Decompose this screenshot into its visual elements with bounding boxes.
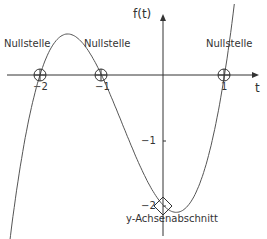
intercept-label: y-Achsenabschnitt	[126, 213, 218, 224]
y-axis-arrow-icon	[160, 14, 166, 21]
x-axis-label: t	[255, 81, 260, 95]
root-marker	[95, 69, 107, 81]
root-marker	[34, 69, 46, 81]
root-label: Nullstelle	[84, 38, 130, 49]
function-plot: t f(t) −2 −1 1 −1 −2 Nullstelle Nullstel…	[0, 0, 267, 239]
root-marker	[218, 69, 230, 81]
y-tick-label: −2	[141, 200, 156, 211]
y-axis-label: f(t)	[133, 7, 151, 21]
y-tick-label: −1	[141, 135, 156, 146]
x-axis-arrow-icon	[252, 72, 259, 78]
root-label: Nullstelle	[4, 38, 50, 49]
x-tick-label: −1	[95, 81, 110, 92]
root-label: Nullstelle	[206, 38, 252, 49]
